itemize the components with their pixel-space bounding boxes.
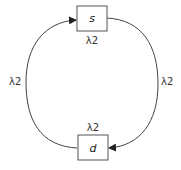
- edge-d-to-s: [26, 20, 77, 148]
- node-d-annotation: λ2: [87, 122, 99, 133]
- node-s-annotation: λ2: [86, 35, 98, 46]
- edge-s-to-d: [107, 18, 158, 148]
- node-d: d: [78, 135, 108, 160]
- node-s-label: s: [89, 12, 95, 25]
- edge-right-label: λ2: [161, 76, 173, 87]
- node-d-label: d: [90, 142, 98, 155]
- diagram-canvas: s λ2 λ2 d λ2 λ2: [0, 0, 181, 170]
- node-s: s: [77, 6, 107, 31]
- edge-left-label: λ2: [9, 76, 21, 87]
